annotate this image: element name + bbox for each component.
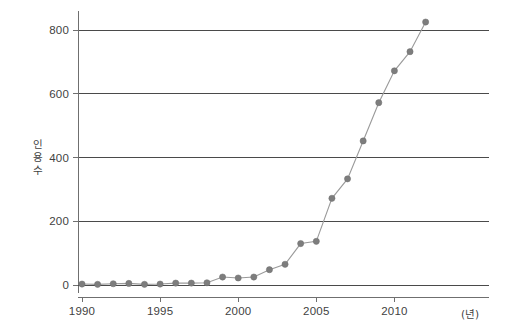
data-point-marker <box>391 68 397 74</box>
data-point-marker <box>79 281 85 287</box>
data-point-marker <box>95 281 101 287</box>
y-axis-title-char: 인 <box>33 138 43 150</box>
data-point-marker <box>407 49 413 55</box>
y-tick-label: 200 <box>49 215 69 227</box>
y-axis-title: 인용수 <box>33 138 43 176</box>
data-point-marker <box>188 280 194 286</box>
chart-plot-area: 0200400600800 19901995200020052010 인용수 (… <box>0 0 505 332</box>
data-point-marker <box>251 274 257 280</box>
data-point-marker <box>282 261 288 267</box>
data-point-marker <box>173 280 179 286</box>
data-point-marker <box>204 280 210 286</box>
data-point-marker <box>266 267 272 273</box>
data-point-marker <box>329 195 335 201</box>
y-tick-label: 0 <box>62 279 69 291</box>
data-point-marker <box>376 100 382 106</box>
data-point-marker <box>423 19 429 25</box>
data-point-marker <box>313 238 319 244</box>
x-tick-label: 2000 <box>225 305 251 317</box>
data-point-marker <box>235 275 241 281</box>
data-point-marker <box>360 138 366 144</box>
data-point-marker <box>219 274 225 280</box>
data-point-marker <box>298 240 304 246</box>
data-point-marker <box>110 281 116 287</box>
y-axis-title-char: 용 <box>33 151 43 163</box>
y-tick-label: 600 <box>49 88 69 100</box>
citation-count-line-chart: 0200400600800 19901995200020052010 인용수 (… <box>0 0 505 332</box>
data-point-marker <box>344 176 350 182</box>
data-point-marker <box>157 281 163 287</box>
x-tick-label: 1990 <box>69 305 95 317</box>
data-point-marker <box>126 280 132 286</box>
x-tick-label: 1995 <box>147 305 173 317</box>
x-tick-label: 2005 <box>303 305 329 317</box>
y-tick-label: 800 <box>49 24 69 36</box>
y-tick-label: 400 <box>49 152 69 164</box>
chart-background <box>0 0 505 332</box>
x-tick-label: 2010 <box>381 305 407 317</box>
data-point-marker <box>141 281 147 287</box>
y-axis-title-char: 수 <box>33 164 43 176</box>
x-axis-title: (년) <box>461 308 479 320</box>
